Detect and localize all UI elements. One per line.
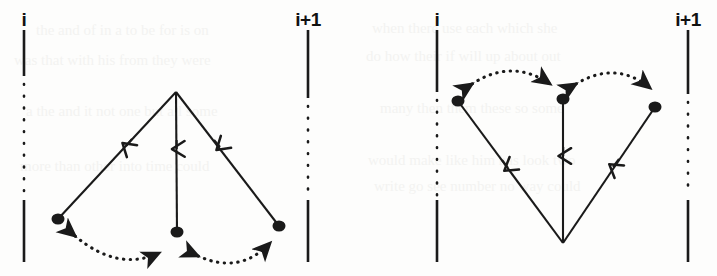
arrowhead-left-to-apex [502,160,508,168]
node-right [649,101,662,112]
panel-left-canvas [0,0,360,276]
edge-left-to-apex [458,101,563,243]
arc-middle-right [576,73,650,88]
arc-left-middle [472,71,550,84]
node-left [52,213,65,224]
node-left [452,95,465,106]
nodes [52,213,286,237]
node-right [273,220,286,231]
panel-left: i i+1 [0,0,360,276]
node-middle [171,226,184,237]
panel-right: i i+1 [360,0,717,276]
edge-arrowheads [126,139,220,149]
edge-apex-to-middle [176,92,177,232]
solid-edges [58,92,279,232]
figure-root: write go see number no way couldwould ma… [0,0,717,276]
dotted-arcs [75,236,270,263]
edge-apex-to-right [176,92,279,226]
dotted-arcs [472,71,650,88]
edge-apex-to-left [58,92,176,219]
arc-left-middle [75,236,159,260]
nodes [452,93,662,112]
arc-middle-right [198,243,270,263]
edge-right-to-apex [563,107,655,243]
edge-arrowheads [502,147,619,168]
arrowhead-apex-to-left [126,139,132,146]
solid-edges [458,99,655,243]
panel-right-canvas [360,0,717,276]
node-middle [557,93,570,104]
